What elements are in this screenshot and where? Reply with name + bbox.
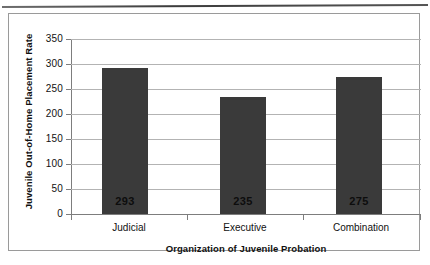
y-tick-label-150: 150	[23, 134, 63, 144]
x-category-label-executive: Executive	[185, 222, 305, 234]
x-tick-end	[420, 215, 421, 220]
gridline-0	[71, 214, 421, 215]
bar-combination[interactable]: 275	[336, 77, 382, 215]
y-tick-label-100: 100	[23, 159, 63, 169]
bar-executive[interactable]: 235	[220, 97, 266, 215]
bar-value-combination: 275	[336, 195, 382, 207]
y-tick-label-250: 250	[23, 84, 63, 94]
x-tick-start	[71, 215, 72, 220]
y-tick-label-50: 50	[23, 184, 63, 194]
chart-frame: Juvenile Out-of-Home Placement Rate 350 …	[8, 13, 420, 251]
y-tick-label-200: 200	[23, 109, 63, 119]
bar-value-judicial: 293	[102, 195, 148, 207]
y-tick-label-300: 300	[23, 59, 63, 69]
x-category-label-combination: Combination	[301, 222, 421, 234]
y-tick-labels: 350 300 250 200 150 100 50 0	[17, 14, 63, 265]
y-tick-label-0: 0	[23, 209, 63, 219]
bar-value-executive: 235	[220, 195, 266, 207]
page-rule	[2, 4, 428, 8]
x-tick-1	[187, 215, 188, 220]
plot-area: 293 235 275	[71, 39, 421, 214]
x-tick-2	[303, 215, 304, 220]
x-category-label-judicial: Judicial	[69, 222, 189, 234]
y-tick-label-350: 350	[23, 34, 63, 44]
x-axis-title: Organization of Juvenile Probation	[71, 243, 421, 254]
bar-judicial[interactable]: 293	[102, 68, 148, 215]
